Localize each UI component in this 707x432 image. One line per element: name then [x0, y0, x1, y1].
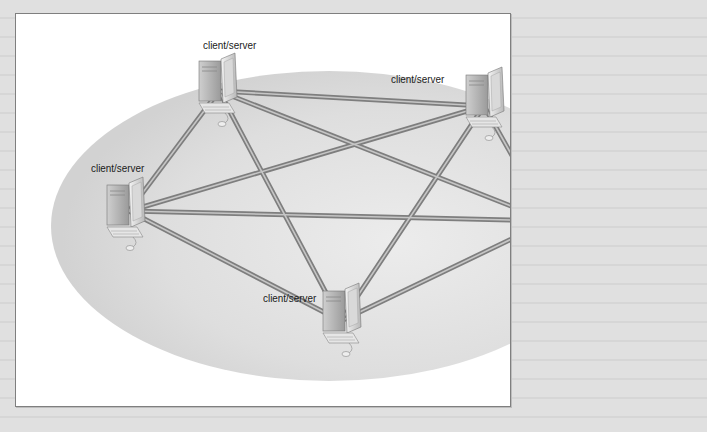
node-label-left: client/server: [91, 162, 144, 175]
node-label-bottom: client/server: [263, 292, 316, 305]
node-label-top-right: client/server: [391, 73, 444, 86]
cropped-caption: [0, 421, 707, 432]
diagram-panel: client/server client/server client/serve…: [15, 13, 511, 407]
node-label-top-left: client/server: [203, 39, 256, 52]
